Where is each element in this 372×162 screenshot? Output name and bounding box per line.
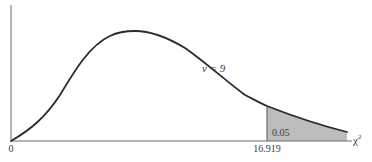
critical-value-tick-label: 16.919 (253, 143, 281, 154)
area-label: 0.05 (272, 127, 290, 138)
chi-square-chart: ν = 9 0.05 16.919 0 χ2 (0, 0, 372, 162)
x-axis-label-superscript: 2 (358, 133, 362, 141)
origin-tick-label: 0 (9, 143, 14, 154)
x-axis-label: χ2 (352, 133, 362, 146)
curve-label: ν = 9 (202, 62, 226, 74)
